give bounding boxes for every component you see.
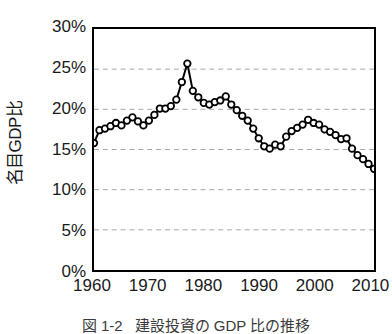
data-point xyxy=(250,125,257,131)
data-point xyxy=(168,103,175,109)
x-axis-tick-label: 2010 xyxy=(338,276,392,296)
chart-canvas xyxy=(94,29,374,270)
data-point xyxy=(184,60,191,66)
y-axis-tick-label: 25% xyxy=(28,59,86,76)
data-point xyxy=(349,145,356,151)
data-point xyxy=(146,117,153,123)
figure-caption-text: 建設投資の GDP 比の推移 xyxy=(135,317,311,334)
y-axis-tick-label: 15% xyxy=(28,141,86,158)
x-axis-tick-labels: 196019701980199020002010 xyxy=(92,276,376,300)
figure-caption: 図 1-2建設投資の GDP 比の推移 xyxy=(0,316,392,334)
data-point xyxy=(94,140,97,146)
data-point xyxy=(195,94,202,100)
data-point xyxy=(173,96,180,102)
y-axis-tick-label: 10% xyxy=(28,181,86,198)
data-point xyxy=(277,143,284,149)
data-markers xyxy=(94,60,374,172)
x-axis-tick-label: 1960 xyxy=(60,276,124,296)
x-axis-tick-label: 1970 xyxy=(116,276,180,296)
x-axis-tick-label: 2000 xyxy=(283,276,347,296)
x-axis-tick-label: 1980 xyxy=(171,276,235,296)
gridlines xyxy=(94,69,374,230)
data-point xyxy=(190,88,197,94)
data-point xyxy=(179,79,186,85)
data-point xyxy=(151,112,158,118)
y-axis-tick-label: 5% xyxy=(28,222,86,239)
data-point xyxy=(371,166,374,172)
figure-container: 名目GDP比 0%5%10%15%20%25%30% 1960197019801… xyxy=(0,0,392,334)
data-point xyxy=(255,135,262,141)
figure-caption-number: 図 1-2 xyxy=(82,317,123,334)
y-axis-tick-label: 20% xyxy=(28,100,86,117)
data-point xyxy=(343,135,350,141)
y-axis-tick-label: 30% xyxy=(28,18,86,35)
data-point xyxy=(233,107,240,113)
data-point xyxy=(283,133,290,139)
plot-area xyxy=(92,27,376,272)
data-point xyxy=(244,117,251,123)
data-point xyxy=(223,93,230,99)
data-point xyxy=(228,101,235,107)
x-axis-tick-label: 1990 xyxy=(227,276,291,296)
